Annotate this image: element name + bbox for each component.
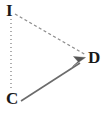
edge-c-to-d-vector bbox=[21, 63, 80, 101]
vertex-label-i: I bbox=[6, 2, 13, 19]
diagram-canvas: I C D bbox=[0, 0, 109, 114]
edge-i-to-d bbox=[15, 14, 86, 55]
arrowhead-icon bbox=[73, 57, 86, 67]
vertex-label-c: C bbox=[6, 90, 18, 107]
vertex-label-d: D bbox=[88, 49, 100, 66]
